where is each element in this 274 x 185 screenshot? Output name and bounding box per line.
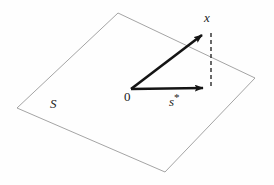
vector-x-arrow — [131, 35, 202, 89]
figure-canvas: x S 0 s* — [0, 0, 274, 185]
subspace-plane — [17, 13, 255, 172]
vector-s-star-arrow — [131, 88, 203, 89]
vector-x-label: x — [204, 11, 210, 24]
vector-s-star-label: s* — [169, 92, 180, 108]
vector-projection-diagram — [0, 0, 274, 185]
origin-label: 0 — [124, 90, 131, 103]
s-star-superscript: * — [174, 91, 180, 103]
subspace-plane-label: S — [50, 97, 57, 110]
